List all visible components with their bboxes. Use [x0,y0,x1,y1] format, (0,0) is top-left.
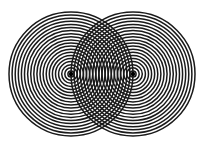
concentric-circles-figure [0,0,204,146]
left-source-point [69,72,73,76]
right-source-point [131,72,135,76]
interference-diagram [0,0,204,146]
